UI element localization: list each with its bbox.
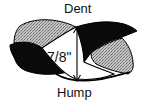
hump-label: Hump: [57, 86, 92, 99]
dent-label: Dent: [64, 2, 91, 15]
measurement-label: 7/8": [47, 50, 71, 64]
twisted-ribbon-diagram: Dent 7/8" Hump: [0, 0, 143, 103]
